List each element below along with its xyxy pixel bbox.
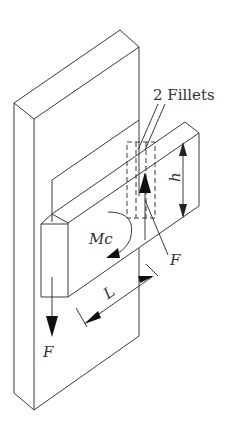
weld-diagram: 2 Fillets h F Mc F L bbox=[0, 0, 241, 425]
back-plate bbox=[14, 30, 139, 410]
cantilever-bar bbox=[41, 120, 199, 297]
moment-label: Mc bbox=[88, 230, 113, 248]
force-right-leader bbox=[145, 200, 168, 255]
force-down-arrow bbox=[46, 277, 58, 337]
force-right-label: F bbox=[169, 251, 181, 269]
force-down-label: F bbox=[42, 343, 54, 361]
fillets-label: 2 Fillets bbox=[153, 86, 215, 104]
diagram-canvas: 2 Fillets h F Mc F L bbox=[0, 0, 241, 425]
height-label: h bbox=[166, 172, 184, 182]
fillets-leader bbox=[138, 104, 165, 150]
length-label: L bbox=[99, 282, 118, 303]
force-up-arrow bbox=[139, 172, 151, 240]
